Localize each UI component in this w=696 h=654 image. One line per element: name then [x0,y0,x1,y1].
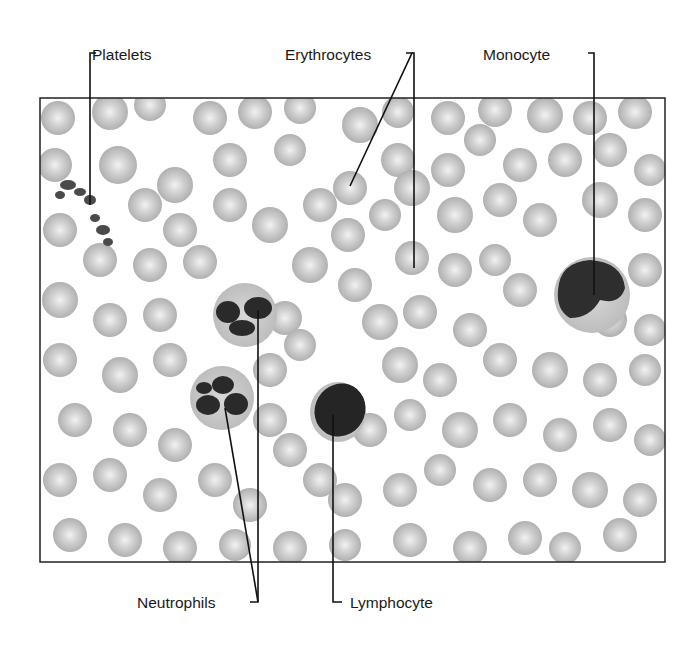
neutrophil-upper [213,283,277,347]
neutrophil-lower [190,366,254,430]
monocyte [554,257,630,333]
micrograph [38,89,666,565]
blood-smear-figure [0,0,696,654]
